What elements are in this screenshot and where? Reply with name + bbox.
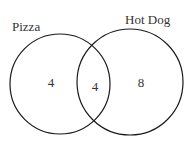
venn-diagram: Pizza Hot Dog 4 4 8 bbox=[0, 0, 192, 144]
hot-dog-only-count: 8 bbox=[138, 75, 145, 90]
pizza-only-count: 4 bbox=[48, 75, 55, 90]
intersection-count: 4 bbox=[92, 79, 99, 94]
hot-dog-label: Hot Dog bbox=[125, 12, 171, 27]
pizza-label: Pizza bbox=[12, 19, 40, 34]
